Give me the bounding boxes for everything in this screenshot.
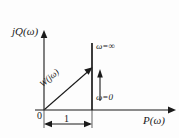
omega-infinity-label: ω=∞ (96, 42, 115, 51)
y-axis-label: jQ(ω) (12, 26, 38, 37)
unit-dimension-label: 1 (64, 114, 69, 124)
y-axis-arrowhead (41, 30, 48, 38)
direction-arrowhead (97, 69, 103, 78)
dimension-arrowhead-right (84, 121, 92, 127)
origin-label: 0 (37, 111, 42, 121)
omega-zero-label: ω=0 (96, 93, 113, 102)
dimension-arrowhead-left (44, 121, 52, 127)
nyquist-figure: jQ(ω) P(ω) 0 ω=∞ ω=0 W(jω) 1 (0, 0, 179, 138)
y-axis (41, 30, 48, 110)
x-axis-arrowhead (168, 107, 176, 114)
x-axis (35, 107, 176, 114)
x-axis-label: P(ω) (143, 115, 165, 126)
